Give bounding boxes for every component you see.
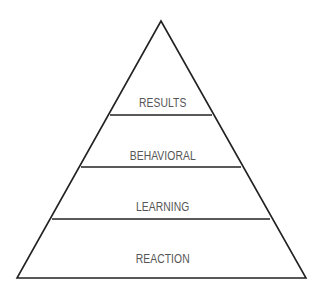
level-label-reaction: REACTION	[23, 252, 303, 266]
pyramid-diagram: RESULTS BEHAVIORAL LEARNING REACTION	[0, 0, 326, 297]
level-label-results: RESULTS	[23, 96, 303, 110]
level-label-learning: LEARNING	[23, 200, 303, 214]
level-label-behavioral: BEHAVIORAL	[23, 149, 303, 163]
